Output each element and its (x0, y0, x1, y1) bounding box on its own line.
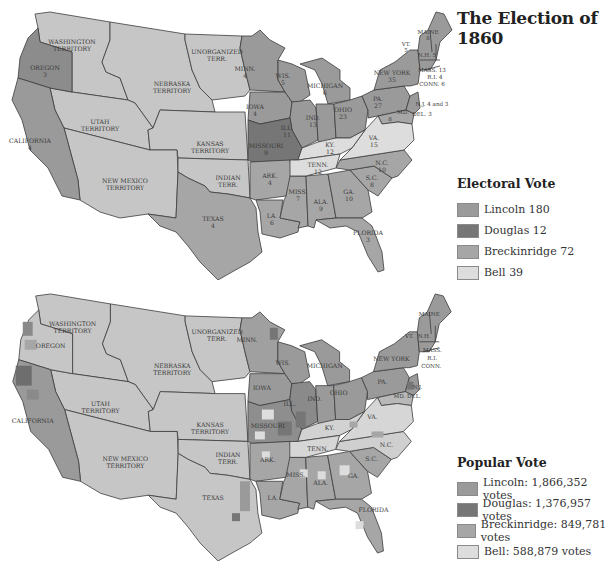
electoral-vote-legend: Electoral Vote Lincoln 180 Douglas 12 Br… (457, 176, 574, 283)
label-tenn: TENN. (307, 445, 328, 452)
label-washington: WASHINGTON (49, 320, 97, 327)
label-md: MD. (397, 109, 409, 115)
label-iowa: IOWA (246, 103, 265, 110)
label-nc: N.C. (380, 441, 393, 448)
label-michigan: MICHIGAN (307, 362, 344, 369)
legend-title-popular: Popular Vote (457, 455, 614, 470)
swatch-lincoln (457, 203, 479, 217)
label-kansas: KANSAS (197, 421, 224, 428)
label-ark: ARK. (261, 172, 278, 179)
svg-text:WASHINGTONTERRITORY: WASHINGTONTERRITORY (49, 320, 97, 334)
label-texas: TEXAS (202, 494, 223, 501)
label-ind: IND. (306, 114, 321, 121)
label-del: DEL. 3 (412, 111, 432, 117)
swatch-bell (457, 266, 479, 280)
label-miss: MISS. (286, 471, 305, 478)
legend-title-electoral: Electoral Vote (457, 176, 574, 191)
label-ala: ALA. (312, 198, 328, 205)
label-mass: MASS. (423, 347, 442, 353)
label-va: VA. (368, 134, 380, 141)
region-florida (316, 218, 384, 272)
label-miss: MISS. (289, 188, 308, 195)
label-ky: KY. (325, 141, 335, 148)
label-la: LA. (268, 494, 279, 501)
legend-item-breckinridge: Breckinridge: 849,781 votes (457, 520, 614, 541)
svg-text:INDIANTERR.: INDIANTERR. (215, 451, 241, 465)
svg-text:FLORIDA3: FLORIDA3 (353, 229, 384, 243)
label-nj: N.J. (412, 384, 422, 391)
label-utah: UTAH (91, 400, 110, 407)
label-ala: ALA. (312, 479, 328, 486)
label-tenn: TENN. (307, 161, 328, 168)
label-vt: VT. (404, 333, 414, 339)
label-missouri: MISSOURI (249, 142, 284, 149)
label-ind: IND. (307, 395, 322, 402)
label-california: CALIFORNIA (9, 137, 52, 144)
label-ill: ILL. (283, 400, 296, 407)
label-pa: PA. (377, 378, 387, 385)
label-la: LA. (267, 212, 278, 219)
svg-text:VA.15: VA.15 (368, 134, 380, 148)
svg-text:KY.12: KY.12 (325, 141, 335, 155)
label-nebraska: NEBRASKA (154, 362, 191, 369)
label-kansas: KANSAS (196, 140, 223, 147)
legend-item-bell: Bell 39 (457, 262, 574, 283)
label-sc: S.C. (365, 455, 377, 462)
swatch-bell (457, 545, 479, 559)
label-ohio: OHIO (334, 106, 352, 113)
label-washington: WASHINGTON (48, 38, 96, 45)
label-ga: GA. (343, 188, 354, 195)
label-new-mexico: NEW MEXICO (103, 455, 149, 462)
popular-vote-map: WASHINGTONTERRITORY OREGON CALIFORNIA UT… (0, 282, 460, 561)
swatch-douglas (457, 503, 478, 517)
label-missouri: MISSOURI (251, 422, 286, 429)
legend-item-breckinridge: Breckinridge 72 (457, 241, 574, 262)
swatch-breckinridge (457, 245, 479, 259)
label-maine: MAINE (419, 311, 440, 317)
label-ohio: OHIO (330, 389, 348, 396)
label-florida: FLORIDA (359, 506, 389, 513)
svg-text:INDIANTERR.: INDIANTERR. (215, 174, 241, 188)
label-new-york: NEW YORK (373, 355, 410, 362)
label-sc: S.C. (366, 174, 378, 181)
label-utah: UTAH (91, 118, 110, 125)
label-new-mexico: NEW MEXICO (102, 177, 148, 184)
label-ky: KY. (325, 424, 335, 431)
label-md-num: 8 (388, 116, 392, 122)
svg-text:WASHINGTONTERRITORY: WASHINGTONTERRITORY (48, 38, 96, 52)
label-indian: INDIAN (215, 174, 241, 181)
label-florida: FLORIDA (353, 229, 384, 236)
svg-text:PA.27: PA.27 (373, 95, 383, 109)
label-wis: WIS. (275, 359, 290, 366)
label-ga: GA. (348, 472, 359, 479)
label-mass: MASS. 13 (418, 67, 446, 73)
label-new-york: NEW YORK (374, 69, 411, 76)
page-title: The Election of 1860 (457, 8, 614, 48)
label-md-del: MD. DEL. (394, 393, 422, 399)
label-nc: N.C. (375, 159, 388, 166)
legend-item-bell: Bell: 588,879 votes (457, 541, 614, 561)
label-va: VA. (366, 413, 377, 420)
swatch-douglas (457, 224, 479, 238)
label-texas: TEXAS (202, 215, 224, 222)
label-unorganized: UNORGANIZED (191, 328, 242, 335)
legend-item-douglas: Douglas 12 (457, 220, 574, 241)
label-ill: ILL. (281, 124, 294, 131)
label-nh: N.H. (418, 333, 431, 339)
popular-vote-legend: Popular Vote Lincoln: 1,866,352 votes Do… (457, 455, 614, 561)
region-new-england (418, 12, 452, 70)
label-ri: R.I. (427, 355, 437, 361)
label-conn: CONN. (421, 363, 441, 369)
label-oregon: OREGON (30, 64, 60, 71)
swatch-breckinridge (457, 524, 476, 538)
swatch-lincoln (457, 482, 478, 496)
label-minn: MINN. (234, 65, 255, 72)
label-minn: MINN. (236, 336, 257, 343)
label-oregon: OREGON (36, 342, 66, 349)
label-wis: WIS. (276, 72, 291, 79)
label-michigan: MICHIGAN (307, 82, 344, 89)
label-nebraska: NEBRASKA (154, 80, 191, 87)
label-pa: PA. (373, 95, 383, 102)
label-nj: N.J. 4 and 3 (416, 101, 449, 108)
svg-text:NEBRASKATERRITORY: NEBRASKATERRITORY (153, 362, 192, 376)
